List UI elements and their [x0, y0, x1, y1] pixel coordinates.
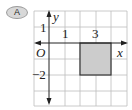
y-tick-1: 1 — [40, 20, 47, 35]
x-axis-label: x — [116, 45, 123, 60]
y-axis-label: y — [51, 9, 59, 24]
y-tick-neg2: −2 — [32, 67, 46, 82]
x-tick-1: 1 — [62, 26, 69, 41]
coordinate-grid: y x O 1 1 3 −2 — [0, 0, 132, 110]
x-tick-3: 3 — [92, 26, 99, 41]
origin-label: O — [36, 45, 46, 60]
y-axis-down-arrow-icon — [47, 98, 52, 105]
shaded-rectangle — [80, 43, 111, 75]
